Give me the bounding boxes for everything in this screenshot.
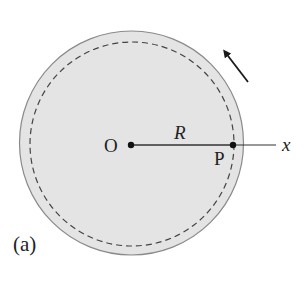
disk-diagram: O R P x (a) [0,0,308,282]
point-label: P [214,148,225,169]
center-point-o [128,142,134,148]
center-label: O [104,135,118,156]
panel-label: (a) [13,232,36,256]
rotation-arrow-icon [225,52,248,82]
radius-label: R [173,122,186,143]
point-p [230,142,236,148]
axis-label: x [281,134,291,155]
rotating-disk-figure: O R P x (a) [0,0,308,282]
